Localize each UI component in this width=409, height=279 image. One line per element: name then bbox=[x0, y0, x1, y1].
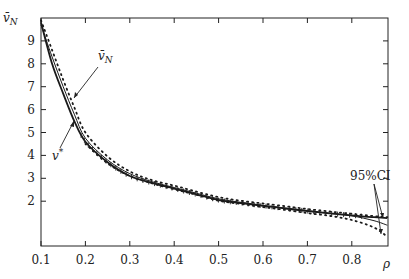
y-tick-label: 7 bbox=[27, 80, 35, 94]
y-tick-label: 6 bbox=[27, 103, 35, 117]
series-v-n bbox=[41, 25, 387, 225]
x-tick-label: 0.2 bbox=[76, 253, 95, 267]
x-tick-label: 0.7 bbox=[298, 253, 317, 267]
series-v- bbox=[41, 23, 387, 219]
curves bbox=[41, 20, 387, 236]
x-tick-label: 0.5 bbox=[209, 253, 228, 267]
annotation-vn: v̄N bbox=[98, 49, 114, 65]
y-tick-label: 2 bbox=[27, 194, 35, 208]
series-95-ci-lower bbox=[85, 144, 387, 237]
arrowhead-icon bbox=[70, 121, 74, 127]
x-tick-label: 0.1 bbox=[31, 253, 50, 267]
annotation-vn-arrow bbox=[74, 67, 98, 98]
x-tick-labels: 0.10.20.30.40.50.60.70.8 bbox=[31, 253, 361, 267]
annotation-ci-arrow-lower bbox=[374, 184, 381, 234]
y-axis-label: v̄N bbox=[3, 11, 19, 27]
x-tick-label: 0.6 bbox=[253, 253, 272, 267]
chart: 0.10.20.30.40.50.60.70.8 23456789 v̄N ρ … bbox=[0, 0, 409, 279]
x-axis-label: ρ bbox=[382, 257, 390, 271]
x-tick-label: 0.8 bbox=[342, 253, 361, 267]
series-95-ci-upper bbox=[41, 20, 387, 217]
y-tick-label: 8 bbox=[27, 57, 35, 71]
x-tick-label: 0.4 bbox=[165, 253, 184, 267]
y-tick-label: 9 bbox=[27, 34, 35, 48]
x-tick-label: 0.3 bbox=[120, 253, 139, 267]
y-tick-label: 4 bbox=[27, 148, 35, 162]
annotation-ci: 95%CI bbox=[350, 169, 391, 183]
annotation-vstar: v* bbox=[52, 147, 64, 163]
plus-markers bbox=[81, 133, 361, 219]
y-tick-label: 3 bbox=[27, 171, 35, 185]
y-tick-labels: 23456789 bbox=[27, 34, 35, 208]
y-tick-label: 5 bbox=[27, 126, 35, 140]
